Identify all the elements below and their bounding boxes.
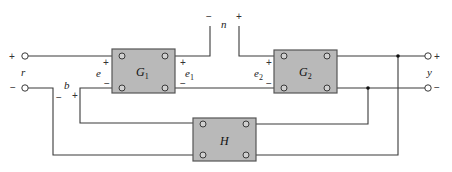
input-terminal-plus [22, 53, 28, 59]
block-diagram-canvas: G1 G2 H + − r + − y + e − + e1 − + e2 − … [0, 0, 452, 172]
output-minus-sign: − [434, 82, 440, 93]
e2-plus-sign: + [266, 57, 272, 68]
junction-dot-bottom [366, 86, 370, 90]
input-plus-sign: + [9, 51, 15, 62]
e2-label: e2 [254, 67, 263, 82]
input-terminal-minus [22, 85, 28, 91]
input-label-r: r [21, 66, 26, 78]
e-minus-sign: − [104, 78, 110, 89]
b-minus-sign: − [56, 92, 62, 103]
wire-r-minus-to-h [28, 88, 203, 155]
n-label: n [221, 18, 227, 30]
block-h-label: H [219, 134, 230, 148]
b-plus-sign: + [72, 90, 78, 101]
n-plus-sign: + [236, 11, 242, 22]
n-minus-sign: − [206, 11, 212, 22]
block-h: H [193, 118, 256, 161]
e-plus-sign: + [103, 57, 109, 68]
e-label: e [96, 67, 101, 79]
output-plus-sign: + [434, 51, 440, 62]
e1-label: e1 [185, 67, 194, 82]
block-g1: G1 [112, 49, 175, 93]
input-minus-sign: − [10, 82, 16, 93]
e2-minus-sign: − [266, 78, 272, 89]
b-label: b [64, 79, 70, 91]
block-g2: G2 [274, 50, 337, 93]
junction-dot-top [396, 54, 400, 58]
output-terminal-plus [425, 53, 431, 59]
e1-minus-sign: − [180, 78, 186, 89]
output-label-y: y [426, 66, 432, 78]
output-terminal-minus [425, 85, 431, 91]
